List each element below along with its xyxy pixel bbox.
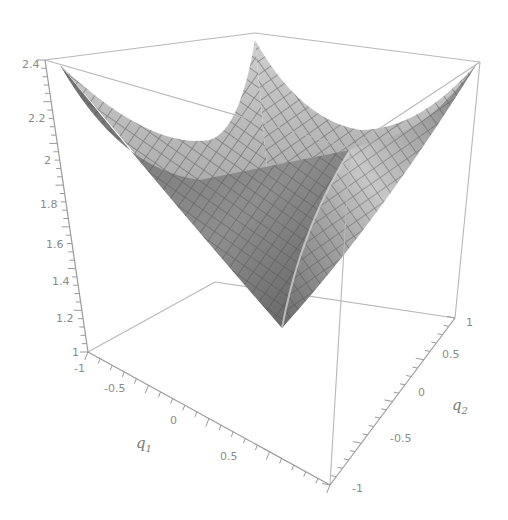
q2-tick-label: 0	[418, 386, 425, 399]
tick-mark	[353, 442, 361, 444]
tick-mark	[219, 425, 221, 430]
tick-mark	[385, 400, 393, 402]
q2-tick-label: -1	[352, 482, 363, 495]
z-tick-label: 2.4	[22, 58, 40, 71]
tick-mark	[327, 485, 330, 493]
q1-tick-label: 0.5	[220, 450, 238, 463]
tick-mark	[350, 451, 355, 452]
tick-mark	[316, 478, 318, 483]
q2-tick-label: 0.5	[442, 348, 460, 361]
tick-mark	[363, 434, 368, 435]
z-tick-label: 2	[44, 154, 51, 167]
tick-mark	[413, 367, 418, 368]
q2-axis-title: q2	[452, 396, 468, 416]
q2-tick-label: -0.5	[390, 432, 411, 445]
z-tick-labels: 2.4 2.2 2 1.8 1.6 1.4 1.2 1	[22, 58, 79, 359]
z-tick-label: 2.2	[28, 112, 46, 125]
tick-mark	[344, 459, 349, 460]
tick-mark	[406, 375, 411, 376]
tick-mark	[110, 365, 112, 370]
z-tick-label: 1.4	[52, 275, 70, 288]
q2-tick-label: 1	[466, 316, 473, 329]
tick-mark	[375, 417, 380, 418]
tick-mark	[134, 379, 136, 384]
q1-tick-label: -0.5	[104, 382, 125, 395]
tick-mark	[243, 438, 245, 443]
tick-mark	[266, 452, 269, 460]
tick-mark	[444, 325, 449, 326]
q1-axis-title: q1	[136, 434, 152, 454]
tick-mark	[400, 384, 405, 385]
tick-mark	[280, 458, 282, 463]
z-tick-label: 1.6	[46, 238, 64, 251]
surface-plot: 2.4 2.2 2 1.8 1.6 1.4 1.2 1 -1 -0.5 0 0.…	[0, 0, 508, 520]
tick-mark	[206, 419, 209, 427]
tick-mark	[195, 412, 197, 417]
z-tick-label: 1	[72, 346, 79, 359]
tick-mark	[425, 350, 430, 351]
tick-mark	[183, 405, 185, 410]
z-tick-label: 1.2	[56, 312, 74, 325]
surface	[60, 40, 478, 328]
tick-mark	[122, 372, 124, 377]
tick-mark	[416, 358, 424, 360]
tick-mark	[159, 392, 161, 397]
tick-mark	[331, 476, 336, 477]
tick-mark	[304, 472, 306, 477]
tick-mark	[438, 334, 443, 335]
tick-mark	[292, 465, 294, 470]
tick-mark	[381, 409, 386, 410]
z-tick-label: 1.8	[40, 198, 58, 211]
tick-mark	[431, 342, 436, 343]
tick-mark	[338, 467, 343, 468]
q1-tick-label: 0	[170, 414, 177, 427]
tick-mark	[231, 432, 233, 437]
tick-mark	[98, 359, 100, 364]
q2-axis	[322, 316, 455, 485]
tick-mark	[394, 392, 399, 393]
tick-mark	[255, 445, 257, 450]
tick-mark	[145, 385, 148, 393]
q1-tick-labels: -1 -0.5 0 0.5	[74, 362, 238, 463]
tick-mark	[171, 399, 173, 404]
q1-axis	[85, 352, 330, 493]
tick-mark	[85, 352, 88, 360]
tick-mark	[369, 426, 374, 427]
q1-tick-label: -1	[74, 362, 85, 375]
